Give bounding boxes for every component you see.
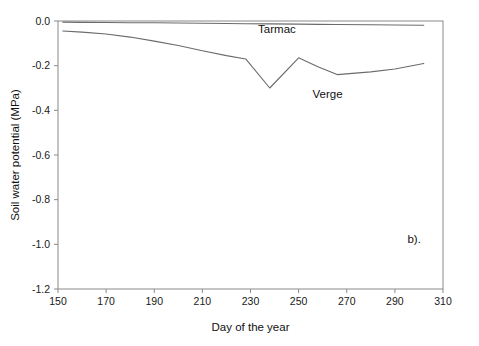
y-axis-tick-label: -0.4 xyxy=(32,104,50,116)
x-axis-tick-label: 310 xyxy=(434,295,452,307)
x-axis-tick-label: 210 xyxy=(194,295,212,307)
series-line-verge xyxy=(63,31,424,88)
plot-frame xyxy=(58,21,443,289)
x-axis-tick-label: 170 xyxy=(97,295,115,307)
x-axis-title: Day of the year xyxy=(212,321,290,333)
x-axis-tick-label: 190 xyxy=(145,295,163,307)
y-axis-tick-label: 0.0 xyxy=(35,15,50,27)
y-axis-tick-label: -1.0 xyxy=(32,238,50,250)
series-annotation-verge: Verge xyxy=(312,88,342,100)
panel-label-b: b). xyxy=(407,233,420,245)
y-axis-tick-label: -0.6 xyxy=(32,149,50,161)
y-axis-tick-label: -1.2 xyxy=(32,283,50,295)
chart-figure: 0.0-0.2-0.4-0.6-0.8-1.0-1.21501701902102… xyxy=(0,0,479,346)
x-axis-tick-label: 150 xyxy=(49,295,67,307)
x-axis-tick-label: 250 xyxy=(290,295,308,307)
x-axis-tick-label: 290 xyxy=(386,295,404,307)
series-annotation-tarmac: Tarmac xyxy=(258,23,296,35)
x-axis-tick-label: 270 xyxy=(338,295,356,307)
y-axis-tick-label: -0.8 xyxy=(32,193,50,205)
y-axis-tick-label: -0.2 xyxy=(32,59,50,71)
y-axis-title: Soil water potential (MPa) xyxy=(9,89,21,221)
x-axis-tick-label: 230 xyxy=(242,295,260,307)
soil-water-potential-line-chart: 0.0-0.2-0.4-0.6-0.8-1.0-1.21501701902102… xyxy=(0,0,479,346)
series-line-tarmac xyxy=(63,22,424,25)
